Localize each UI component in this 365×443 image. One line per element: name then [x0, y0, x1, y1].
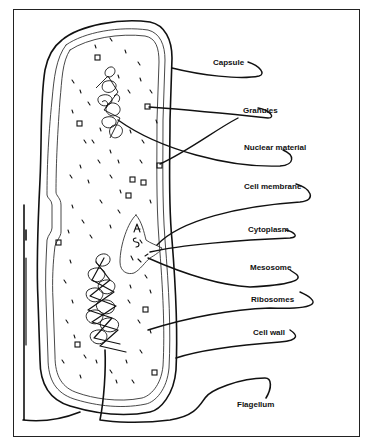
ribosomes	[62, 38, 157, 383]
leader-lines	[118, 62, 313, 358]
label-ribosomes: Ribosomes	[251, 295, 294, 304]
label-cytoplasm: Cytoplasm	[248, 225, 289, 234]
label-capsule: Capsule	[213, 58, 244, 67]
flagellum	[100, 350, 270, 422]
leader-granules-2	[160, 118, 238, 164]
capsule-outline	[37, 21, 177, 415]
label-mesosome: Mesosome	[250, 263, 291, 272]
label-cell-wall: Cell wall	[253, 328, 285, 337]
label-cell-membrane: Cell membrane	[244, 182, 301, 191]
flagellum-left-stroke	[23, 205, 80, 421]
cell-wall-outline	[46, 29, 170, 407]
label-nuclear-material: Nuclear material	[244, 143, 306, 152]
leader-membrane	[157, 184, 310, 245]
cell-membrane-outline	[53, 35, 164, 400]
bacterial-cell-diagram: Capsule Granules Nuclear material Cell m…	[0, 0, 365, 443]
mesosome-detail	[131, 224, 148, 262]
label-granules: Granules	[243, 106, 278, 115]
label-flagellum: Flagellum	[237, 400, 274, 409]
mesosome-outline	[120, 215, 162, 274]
nuclear-material-lower	[86, 254, 126, 352]
cell-drawing	[0, 0, 365, 443]
